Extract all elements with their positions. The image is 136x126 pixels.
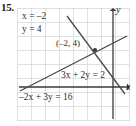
intersection-point-marker [93, 48, 97, 52]
annotation-line-b-equation: –2x + 3y = 16 [19, 92, 72, 102]
problem-number: 15. [1, 1, 14, 13]
x-axis-label: x [126, 82, 130, 92]
y-axis-label: y [116, 5, 120, 15]
annotation-line-a-equation: 3x + 2y = 2 [61, 70, 105, 80]
annotation-intersection-point: (–2, 4) [56, 38, 80, 48]
figure-container: 15. [0, 0, 136, 126]
annotation-y-equals: y = 4 [22, 24, 42, 34]
annotation-x-equals: x = –2 [22, 11, 46, 21]
line-3x-plus-2y-equals-2 [67, 16, 125, 94]
